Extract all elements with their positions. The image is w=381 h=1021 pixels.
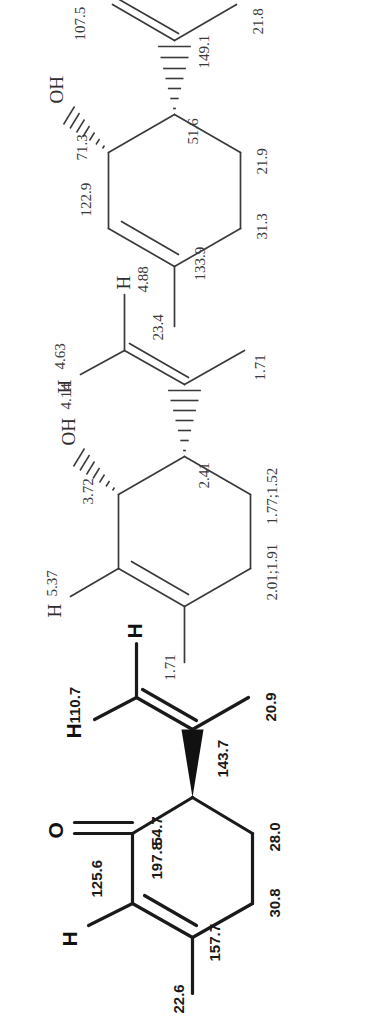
isopropenyl-methyl-bond (192, 697, 248, 729)
ring-double-bond-inner (144, 895, 196, 925)
structure-3-rotated-group: H O H H 22.6 125.6 197.8 54.7 157.7 30.8… (0, 681, 381, 1021)
structure-3-drawing: H O H H 22.6 125.6 197.8 54.7 157.7 30.8… (0, 681, 381, 1021)
ring-alkene-h-bond (88, 903, 132, 925)
shift-label-ring-methyl: 1.71 (162, 654, 177, 680)
shift-label-carbinol-h: 3.72 (80, 478, 95, 504)
shift-label-ring-alkene-ch: 122.9 (78, 182, 93, 216)
hydroxyl-atom-label: OH (58, 417, 77, 446)
shift-label-carbonyl: 197.8 (148, 841, 163, 879)
structure-panel-3: H O H H 22.6 125.6 197.8 54.7 157.7 30.8… (0, 681, 381, 1021)
shift-label-hydroxyl-h: 4.14 (58, 383, 73, 409)
vinyl-h-bond-a (94, 697, 136, 719)
shift-label-isopropenyl-quaternary: 149.1 (196, 34, 211, 68)
vinyl-h-bond-a (80, 350, 124, 374)
shift-label-ring-ch2-b: 21.9 (254, 148, 269, 174)
structure-1-drawing: OH 23.4 122.9 71.3 133.9 51.6 31.3 21.9 … (0, 0, 381, 340)
vinyl-double-bond-inner (129, 343, 188, 377)
bold-wedge-bond-isopropenyl (181, 729, 203, 797)
structure-2-drawing: H OH H H 1.71 5.37 3.72 4.14 2.41 2.01;1… (0, 340, 381, 680)
vinyl-hydrogen-atom-label-a: H (62, 722, 83, 739)
shift-label-isopropenyl-quaternary: 143.7 (214, 739, 229, 777)
structure-panel-2: H OH H H 1.71 5.37 3.72 4.14 2.41 2.01;1… (0, 340, 381, 680)
shift-label-ring-ch2-a: 30.8 (266, 888, 281, 917)
ring-bond-top-right (108, 114, 174, 152)
shift-label-ring-alkene-ch: 125.6 (88, 859, 103, 897)
figure-canvas: OH 23.4 122.9 71.3 133.9 51.6 31.3 21.9 … (0, 0, 381, 1021)
shift-label-ring-ch2-a: 31.3 (254, 213, 269, 239)
ketone-oxygen-atom-label: O (44, 821, 65, 839)
vinyl-hydrogen-atom-label-b: H (113, 274, 132, 290)
shift-label-vinyl-h-a: 4.63 (52, 343, 67, 369)
structure-3-bonds (0, 681, 381, 1021)
shift-label-ring-methyl: 23.4 (150, 314, 165, 340)
shift-label-allylic-ch: 51.6 (185, 118, 200, 144)
structure-panel-1: OH 23.4 122.9 71.3 133.9 51.6 31.3 21.9 … (0, 0, 381, 340)
shift-label-carbinol: 71.3 (74, 134, 89, 160)
shift-label-ring-ch2-a-h: 2.01;1.91 (264, 543, 279, 600)
shift-label-ring-ch2-b-h: 1.77;1.52 (264, 467, 279, 524)
vinyl-double-bond-outer (112, 4, 174, 40)
shift-label-isopropenyl-methyl: 21.8 (250, 8, 265, 34)
ring-double-bond-inner (121, 221, 178, 254)
vinyl-double-bond-inner (117, 0, 178, 33)
structure-1-rotated-group: OH 23.4 122.9 71.3 133.9 51.6 31.3 21.9 … (0, 0, 381, 340)
structure-1-bonds (0, 0, 381, 340)
shift-label-vinyl-ch2: 107.5 (72, 6, 87, 40)
ring-bond-top-right (118, 456, 184, 494)
shift-label-alpha-ch: 54.7 (148, 816, 163, 845)
ring-alkene-hydrogen-atom-label: H (58, 930, 79, 947)
isopropenyl-methyl-bond (184, 350, 244, 384)
vinyl-hydrogen-atom-label-b: H (123, 622, 144, 639)
shift-label-ring-alkene-quaternary: 157.7 (206, 923, 221, 961)
hashed-bond-isopropenyl (168, 390, 201, 450)
shift-label-ring-ch2-b: 28.0 (266, 822, 281, 851)
hydroxyl-atom-label: OH (46, 75, 65, 104)
shift-label-ring-alkene-h: 5.37 (44, 570, 59, 596)
ring-bond-bottom-left (184, 568, 250, 606)
shift-label-vinyl-ch2: 110.7 (66, 686, 81, 723)
shift-label-ring-alkene-quaternary: 133.9 (192, 246, 207, 280)
ring-bond-bottom-right (184, 456, 250, 494)
shift-label-allylic-h: 2.41 (196, 462, 211, 488)
shift-label-isopropenyl-methyl-h: 1.71 (252, 354, 267, 380)
vinyl-double-bond-outer (124, 350, 184, 384)
shift-label-isopropenyl-methyl: 20.9 (262, 692, 277, 721)
shift-label-ring-methyl: 22.6 (170, 984, 185, 1013)
hashed-bond-isopropenyl (158, 46, 191, 108)
structure-2-rotated-group: H OH H H 1.71 5.37 3.72 4.14 2.41 2.01;1… (0, 340, 381, 680)
ring-bond-bottom-right (192, 797, 252, 833)
ring-double-bond-inner (131, 561, 188, 594)
ring-alkene-h-bond (70, 568, 118, 596)
ring-bond-top-left (132, 903, 192, 937)
ring-alkene-hydrogen-atom-label: H (44, 602, 63, 618)
shift-label-vinyl-h-b: 4.88 (135, 266, 150, 292)
